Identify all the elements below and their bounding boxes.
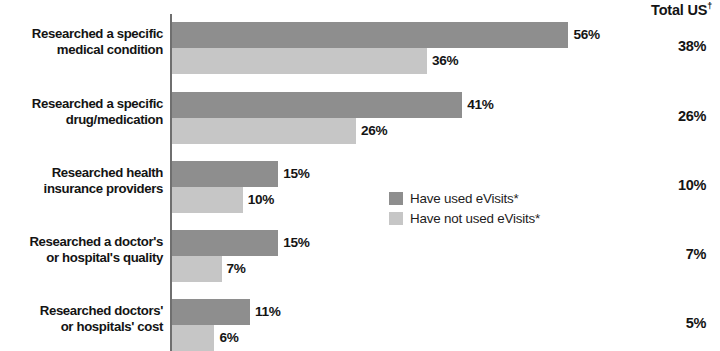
bar [172, 118, 356, 144]
bar-row-have-used-evisits: 56% [172, 22, 600, 48]
total-us-value: 7% [636, 246, 706, 262]
bar-value-label: 15% [278, 230, 309, 256]
total-us-value: 5% [636, 315, 706, 331]
bar-value-label: 7% [222, 256, 246, 282]
category-label: Researched doctors'or hospitals' cost [0, 303, 163, 334]
bar-value-label: 6% [214, 325, 238, 351]
category-label: Researched a specificmedical condition [0, 26, 163, 57]
category-label: Researched a doctor'sor hospital's quali… [0, 234, 163, 265]
total-us-value: 10% [636, 177, 706, 193]
category-group: Researched a specificmedical condition56… [0, 22, 720, 74]
bar-value-label: 56% [568, 22, 599, 48]
bar-value-label: 36% [427, 48, 458, 74]
bar-row-have-not-used-evisits: 7% [172, 256, 246, 282]
bar-chart: Total US† Researched a specificmedical c… [0, 0, 720, 351]
category-label: Researched a specificdrug/medication [0, 96, 163, 127]
bar [172, 48, 427, 74]
category-group: Researched doctors'or hospitals' cost11%… [0, 299, 720, 351]
legend-item-not_used: Have not used eVisits* [389, 209, 540, 227]
category-label-line: drug/medication [0, 112, 163, 128]
bar [172, 256, 222, 282]
category-label-line: Researched a doctor's [0, 234, 163, 250]
bar-value-label: 10% [243, 187, 274, 213]
legend-swatch-icon [389, 192, 403, 205]
legend-swatch-icon [389, 212, 403, 225]
total-us-value: 26% [636, 108, 706, 124]
bar-row-have-not-used-evisits: 36% [172, 48, 458, 74]
footnote-marker-dagger-icon: † [707, 1, 712, 11]
bar [172, 187, 243, 213]
category-group: Researched a doctor'sor hospital's quali… [0, 230, 720, 282]
bar-row-have-not-used-evisits: 6% [172, 325, 239, 351]
category-label: Researched healthinsurance providers [0, 165, 163, 196]
total-us-header-label: Total US [651, 2, 707, 18]
bar-row-have-used-evisits: 11% [172, 299, 280, 325]
category-group: Researched healthinsurance providers15%1… [0, 161, 720, 213]
category-label-line: Researched a specific [0, 96, 163, 112]
bar-row-have-not-used-evisits: 26% [172, 118, 387, 144]
bar-value-label: 26% [356, 118, 387, 144]
bar-row-have-used-evisits: 15% [172, 230, 310, 256]
bar [172, 325, 214, 351]
total-us-header: Total US† [651, 2, 712, 18]
legend-item-used: Have used eVisits* [389, 189, 540, 207]
bar-row-have-not-used-evisits: 10% [172, 187, 274, 213]
bar-value-label: 15% [278, 161, 309, 187]
category-label-line: medical condition [0, 42, 163, 58]
bar [172, 22, 568, 48]
legend-label: Have used eVisits* [410, 191, 519, 206]
category-label-line: Researched a specific [0, 26, 163, 42]
chart-legend: Have used eVisits*Have not used eVisits* [389, 189, 540, 229]
bar-value-label: 11% [250, 299, 281, 325]
category-label-line: Researched doctors' [0, 303, 163, 319]
category-label-line: Researched health [0, 165, 163, 181]
category-label-line: or hospitals' cost [0, 319, 163, 335]
category-label-line: insurance providers [0, 181, 163, 197]
bar [172, 161, 278, 187]
category-label-line: or hospital's quality [0, 250, 163, 266]
bar-row-have-used-evisits: 41% [172, 92, 494, 118]
bar-row-have-used-evisits: 15% [172, 161, 310, 187]
bar-value-label: 41% [462, 92, 493, 118]
bar [172, 299, 250, 325]
total-us-value: 38% [636, 38, 706, 54]
category-group: Researched a specificdrug/medication41%2… [0, 92, 720, 144]
bar [172, 230, 278, 256]
legend-label: Have not used eVisits* [410, 211, 540, 226]
bar [172, 92, 462, 118]
